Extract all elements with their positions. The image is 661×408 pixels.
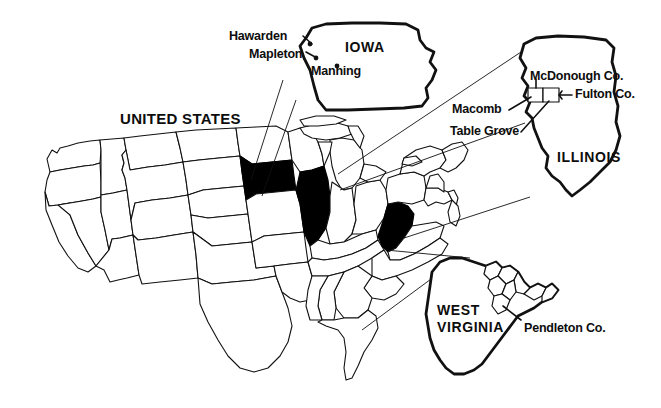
inset-west-virginia-label-pendleton-county: Pendleton Co. — [524, 322, 605, 335]
map-title-united-states: UNITED STATES — [120, 111, 241, 126]
inset-iowa-label-mapleton: Mapleton — [249, 48, 302, 61]
state-maryland — [424, 188, 452, 206]
inset-illinois-label-macomb: Macomb — [452, 103, 502, 116]
state-texas — [198, 276, 292, 372]
inset-west-virginia-label-state-line2: VIRGINIA — [437, 320, 504, 335]
inset-illinois-label-mcdonough-county: McDonough Co. — [530, 70, 623, 83]
county-box-mcdonough — [528, 88, 543, 102]
inset-illinois-label-table-grove: Table Grove — [450, 125, 519, 138]
lake-erie — [360, 164, 386, 182]
main-map-group — [45, 116, 468, 380]
leader-line-wv-a — [404, 197, 530, 238]
inset-illinois-label-state: ILLINOIS — [557, 150, 621, 164]
state-florida — [318, 310, 378, 380]
state-indiana — [326, 182, 356, 244]
county-box-fulton — [543, 88, 559, 102]
inset-illinois-label-fulton-county: Fulton Co. — [575, 88, 635, 101]
inset-west-virginia-label-state-line1: WEST — [437, 303, 480, 318]
state-new-mexico — [133, 232, 198, 284]
inset-iowa-label-hawarden: Hawarden — [229, 30, 287, 43]
inset-iowa-label-manning: Manning — [311, 65, 361, 78]
inset-illinois-group — [509, 36, 620, 196]
map-canvas: .st { fill:#ffffff; stroke:#111111; stro… — [0, 0, 661, 408]
inset-iowa-label-state: IOWA — [345, 40, 385, 54]
map-figure: .st { fill:#ffffff; stroke:#111111; stro… — [0, 0, 661, 408]
state-pennsylvania — [386, 172, 426, 204]
